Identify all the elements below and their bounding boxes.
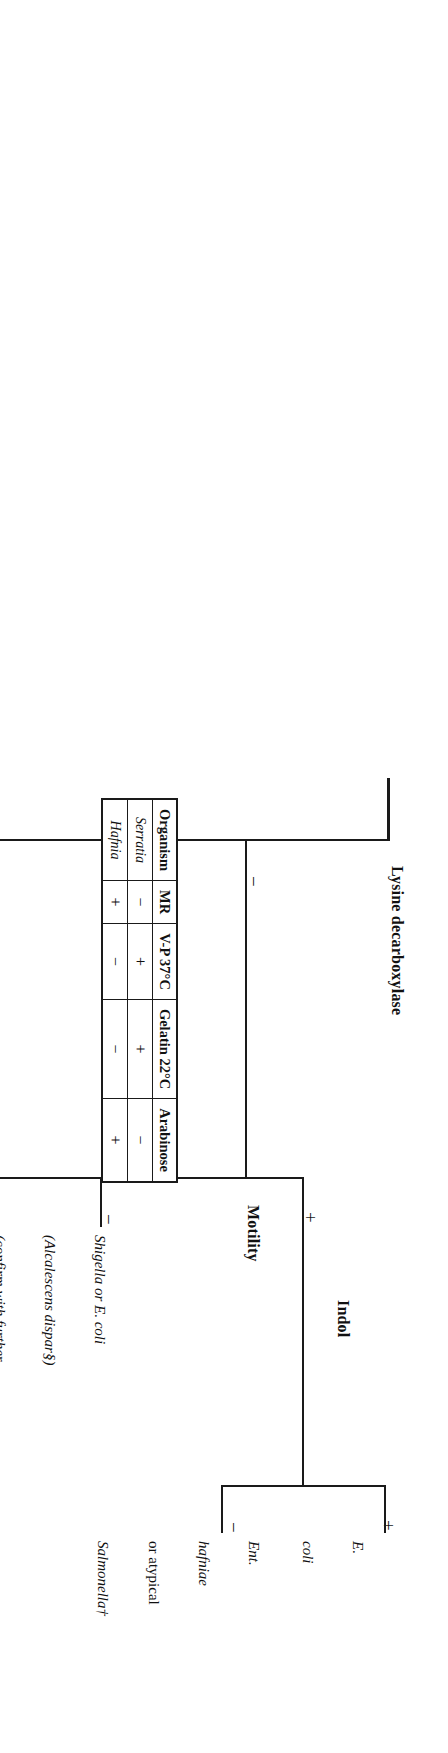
leaf-hafniae-line4: Salmonella† [94, 1541, 111, 1616]
motility-minus-branch-line [100, 1177, 102, 1227]
test-label-indol: Indol [334, 1300, 352, 1337]
table-row: Hafnia + − − + [102, 799, 128, 1182]
leaf-ecoli-line2: coli [299, 1541, 316, 1564]
indol-plus-sign: + [379, 1520, 398, 1531]
cell-organism-hafnia: Hafnia [102, 799, 128, 881]
table-header-organism: Organism [153, 799, 178, 881]
motility-plus-riser-line [246, 1177, 304, 1179]
cell-gelatin-serratia: + [128, 999, 153, 1098]
indol-connector-line [302, 1177, 304, 1487]
leaf-hafniae-line1: Ent. [246, 1541, 263, 1616]
leaf-shigella-line1: Shigella or E. coli [92, 1235, 109, 1375]
leaf-ecoli-line1: E. [350, 1541, 367, 1564]
leaf-shigella-ecoli: Shigella or E. coli (Alcalescens dispar§… [0, 1235, 142, 1375]
table-header-mr: MR [153, 881, 178, 924]
root-stub-line [387, 778, 390, 840]
key-diagram-canvas: Lysine decarboxylase − + Motility − + Sh… [0, 0, 448, 1753]
lysine-node-split-line [0, 839, 390, 841]
differentiation-table: Organism MR V-P 37°C Gelatin 22°C Arabin… [101, 798, 178, 1183]
cell-vp-serratia: + [128, 924, 153, 1000]
table-header-vp: V-P 37°C [153, 924, 178, 1000]
indol-minus-sign: − [224, 1522, 243, 1533]
table-row: Serratia − + + − [128, 799, 153, 1182]
cell-gelatin-hafnia: − [102, 999, 128, 1098]
leaf-ent-hafniae: Ent. hafniae or atypical Salmonella† [61, 1541, 296, 1616]
indol-plus-branch-line [384, 1485, 386, 1533]
cell-arabinose-serratia: − [128, 1099, 153, 1182]
table-header-gelatin: Gelatin 22°C [153, 999, 178, 1098]
leaf-hafniae-line2: hafniae [195, 1541, 212, 1616]
lysine-minus-branch-line [245, 839, 247, 1179]
indol-minus-branch-line [221, 1485, 223, 1533]
table-header-arabinose: Arabinose [153, 1099, 178, 1182]
test-label-motility: Motility [244, 1205, 262, 1262]
cell-vp-hafnia: − [102, 924, 128, 1000]
test-label-lysine-decarboxylase: Lysine decarboxylase [388, 866, 406, 1015]
cell-arabinose-hafnia: + [102, 1099, 128, 1182]
leaf-shigella-line3: (confirm with further [0, 1235, 8, 1375]
cell-mr-serratia: − [128, 881, 153, 924]
table-header-row: Organism MR V-P 37°C Gelatin 22°C Arabin… [153, 799, 178, 1182]
cell-mr-hafnia: + [102, 881, 128, 924]
indol-node-split-line [221, 1485, 386, 1487]
cell-organism-serratia: Serratia [128, 799, 153, 881]
leaf-shigella-line2: (Alcalescens dispar§) [41, 1235, 58, 1375]
leaf-hafniae-line3: or atypical [145, 1541, 162, 1616]
